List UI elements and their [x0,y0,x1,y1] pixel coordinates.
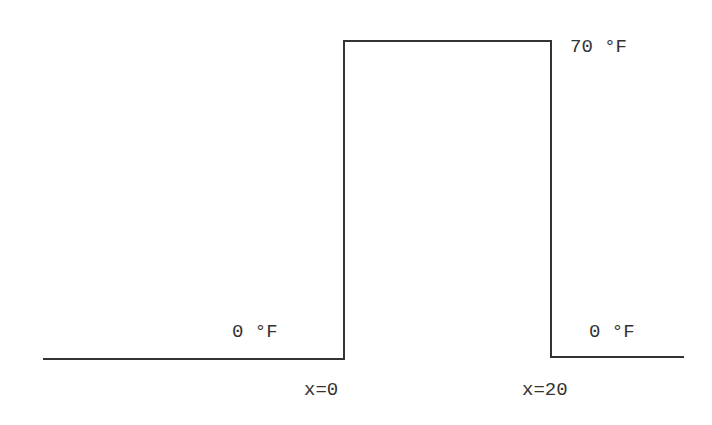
temperature-profile-line [43,41,684,359]
profile-graphic [0,0,712,425]
left-boundary-label: x=0 [304,381,338,400]
left-temperature-label: 0 °F [232,323,278,342]
right-boundary-label: x=20 [522,381,568,400]
top-temperature-label: 70 °F [570,38,627,57]
temperature-profile-diagram: 70 °F 0 °F 0 °F x=0 x=20 [0,0,712,425]
right-temperature-label: 0 °F [589,323,635,342]
